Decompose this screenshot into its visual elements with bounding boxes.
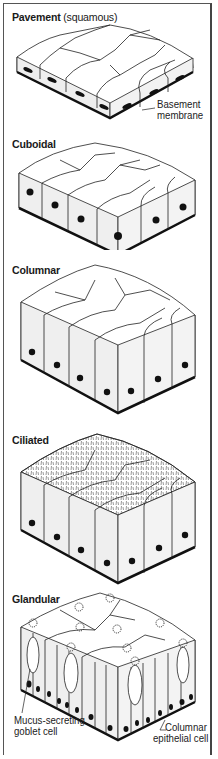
columnar-epithelial-cell-label-line2: epithelial cell: [153, 733, 208, 744]
cuboidal-epithelium-diagram: [0, 125, 218, 250]
panel-glandular: Glandular: [0, 585, 218, 759]
panel-cuboidal: Cuboidal: [0, 125, 218, 250]
ciliated-epithelium-diagram: [0, 420, 218, 585]
goblet-cell-label: Mucus-secreting goblet cell: [14, 715, 85, 737]
panel-ciliated: Ciliated: [0, 420, 218, 585]
basement-membrane-label: Basement membrane: [157, 99, 203, 121]
panel-pavement: Pavement (squamous) Basement membrane: [0, 0, 218, 125]
panel-columnar: Columnar: [0, 250, 218, 420]
columnar-epithelium-diagram: [0, 250, 218, 420]
